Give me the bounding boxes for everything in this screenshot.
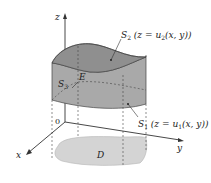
bottom-surface-label: S1 (z = u1(x, y)) xyxy=(138,119,209,130)
z-axis-label: z xyxy=(54,12,60,22)
solid-region-diagram: z x y 0 S2 (z = u2(x, y)) S1 (z = u1(x, … xyxy=(0,0,211,183)
y-axis-arrow xyxy=(178,138,184,142)
projection-label: D xyxy=(96,150,104,160)
top-surface-label: S2 (z = u2(x, y)) xyxy=(121,30,192,41)
origin-label: 0 xyxy=(55,117,60,126)
s2-dot xyxy=(110,59,112,61)
y-axis-label: y xyxy=(176,143,183,153)
x-axis-label: x xyxy=(16,150,21,160)
solid-label: E xyxy=(78,72,86,82)
z-axis-arrow xyxy=(63,13,67,19)
s1-dot xyxy=(127,103,129,105)
